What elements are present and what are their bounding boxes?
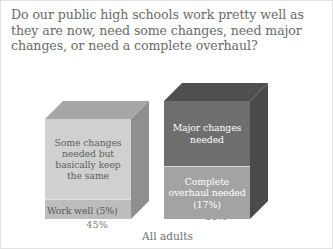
segment-complete-overhaul: Complete overhaul needed (17%) bbox=[164, 166, 250, 219]
column-left-side-face bbox=[131, 101, 149, 219]
column-right-side-face bbox=[250, 83, 268, 219]
segment-major-changes-label: Major changes needed bbox=[164, 122, 250, 144]
segment-work-well: Work well (5%) bbox=[45, 199, 131, 219]
segment-major-changes: Major changes needed bbox=[164, 101, 250, 166]
x-axis-caption: All adults bbox=[1, 230, 333, 242]
segment-complete-overhaul-label: Complete overhaul needed (17%) bbox=[164, 176, 250, 210]
column-left-front-faces: Some changes needed but basically keep t… bbox=[45, 119, 131, 219]
column-right-front-faces: Major changes needed Complete overhaul n… bbox=[164, 101, 250, 219]
column-left-total-label: 45% bbox=[45, 219, 149, 230]
plot-area: 45% Some changes needed bbox=[1, 56, 333, 249]
segment-some-changes: Some changes needed but basically keep t… bbox=[45, 119, 131, 199]
segment-work-well-label: Work well (5%) bbox=[45, 205, 118, 219]
chart-figure: Do our public high schools work pretty w… bbox=[0, 0, 333, 249]
column-left-stack: Some changes needed but basically keep t… bbox=[45, 101, 149, 219]
chart-title: Do our public high schools work pretty w… bbox=[11, 7, 326, 54]
column-right-stack: Major changes needed Complete overhaul n… bbox=[164, 83, 268, 219]
segment-some-changes-label: Some changes needed but basically keep t… bbox=[45, 137, 131, 182]
